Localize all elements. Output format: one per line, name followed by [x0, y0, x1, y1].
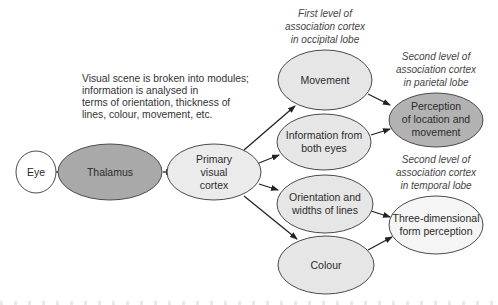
arrow-movement-perception	[368, 94, 390, 105]
annotation-temporal: Second level of association cortex in te…	[396, 154, 477, 191]
svg-text:of location and: of location and	[402, 113, 470, 125]
svg-text:cortex: cortex	[200, 179, 229, 191]
node-three-dimensional: Three-dimensional form perception	[389, 196, 483, 254]
svg-text:association cortex: association cortex	[396, 64, 477, 75]
node-both-eyes: Information from both eyes	[277, 114, 371, 170]
node-colour: Colour	[278, 236, 374, 294]
arrow-primary-both-eyes	[259, 155, 279, 163]
svg-text:Colour: Colour	[311, 259, 342, 271]
node-orientation: Orientation and widths of lines	[277, 175, 373, 233]
svg-text:Primary: Primary	[196, 153, 233, 165]
svg-text:in parietal lobe: in parietal lobe	[403, 77, 468, 88]
svg-text:form perception: form perception	[400, 225, 473, 237]
svg-text:Orientation and: Orientation and	[289, 191, 361, 203]
node-eye: Eye	[16, 151, 56, 193]
arrow-both-eyes-perception	[371, 129, 390, 135]
annotation-first-level: First level of association cortex in occ…	[285, 8, 366, 45]
svg-text:Three-dimensional: Three-dimensional	[393, 212, 480, 224]
annotation-parietal: Second level of association cortex in pa…	[396, 51, 477, 88]
cut-off-caption-strip	[0, 301, 498, 305]
svg-text:widths of lines: widths of lines	[291, 204, 358, 216]
svg-text:Second level of: Second level of	[402, 154, 472, 165]
node-perception: Perception of location and movement	[389, 93, 483, 147]
svg-text:visual: visual	[201, 166, 228, 178]
svg-text:Perception: Perception	[411, 100, 461, 112]
svg-text:in occipital lobe: in occipital lobe	[291, 34, 360, 45]
node-primary-visual-cortex: Primary visual cortex	[167, 144, 261, 200]
svg-text:both eyes: both eyes	[301, 142, 347, 154]
svg-text:association cortex: association cortex	[285, 21, 366, 32]
svg-text:First level of: First level of	[298, 8, 353, 19]
svg-text:Thalamus: Thalamus	[87, 166, 133, 178]
svg-text:movement: movement	[411, 126, 460, 138]
svg-text:association cortex: association cortex	[396, 167, 477, 178]
svg-text:in temporal lobe: in temporal lobe	[400, 180, 472, 191]
node-thalamus: Thalamus	[58, 144, 162, 200]
node-movement: Movement	[278, 50, 372, 110]
svg-text:Eye: Eye	[27, 166, 45, 178]
arrow-primary-orientation	[259, 184, 278, 190]
svg-text:Information from: Information from	[286, 129, 363, 141]
svg-text:Second level of: Second level of	[402, 51, 472, 62]
svg-text:Movement: Movement	[300, 74, 349, 86]
arrow-colour-3d	[368, 237, 392, 250]
arrow-orientation-3d	[371, 211, 390, 217]
visual-pathway-diagram: First level of association cortex in occ…	[0, 0, 498, 305]
